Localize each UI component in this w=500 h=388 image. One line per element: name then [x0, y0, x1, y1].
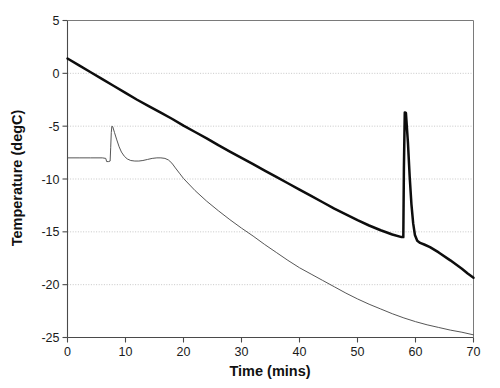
y-tick-label-5: 5	[53, 14, 60, 28]
line-chart-canvas: 50-5-10-15-20-25010203040506070 Time (mi…	[0, 0, 500, 388]
y-axis-title: Temperature (degC)	[9, 109, 25, 246]
x-tick-label-50: 50	[351, 345, 365, 359]
y-tick-label--25: -25	[41, 331, 59, 345]
data-series-group	[68, 59, 474, 335]
series-line-bath-temperature	[68, 59, 474, 278]
y-tick-label--10: -10	[41, 173, 59, 187]
x-tick-label-60: 60	[409, 345, 423, 359]
chart-figure: 50-5-10-15-20-25010203040506070 Time (mi…	[0, 0, 500, 388]
gridlines-group	[68, 73, 474, 284]
series-line-sample-temperature	[68, 126, 474, 335]
y-tick-label--5: -5	[48, 120, 59, 134]
x-axis-title: Time (mins)	[229, 363, 310, 379]
x-tick-label-0: 0	[64, 345, 71, 359]
axis-ticks-group	[63, 21, 474, 343]
x-tick-label-10: 10	[119, 345, 133, 359]
x-tick-label-20: 20	[177, 345, 191, 359]
x-tick-label-40: 40	[293, 345, 307, 359]
y-tick-label--15: -15	[41, 225, 59, 239]
x-tick-label-70: 70	[467, 345, 481, 359]
y-tick-label--20: -20	[41, 278, 59, 292]
x-tick-label-30: 30	[235, 345, 249, 359]
tick-labels-group: 50-5-10-15-20-25010203040506070	[41, 14, 480, 359]
y-tick-label-0: 0	[53, 67, 60, 81]
